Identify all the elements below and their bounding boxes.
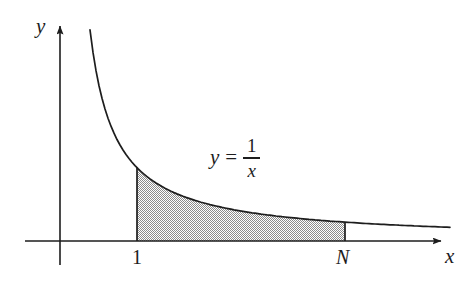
curve-equation-label: y = 1 x [210,136,260,180]
equals-sign: = [224,147,238,168]
x-tick-label-1: 1 [132,247,142,267]
y-axis-label: y [36,16,45,37]
fraction-denominator: x [244,159,258,180]
fraction-numerator: 1 [244,136,260,157]
x-axis-label: x [445,246,454,267]
fraction: 1 x [243,136,260,180]
equation-left-side: y [210,147,219,168]
x-tick-label-N: N [336,247,349,267]
integral-test-figure: y x 1 N y = 1 x [0,0,476,284]
